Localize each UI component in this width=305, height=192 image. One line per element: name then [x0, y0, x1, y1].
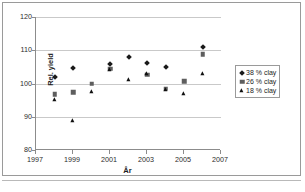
data-point	[70, 65, 76, 71]
x-axis-tick-label: 1999	[57, 155, 87, 164]
y-axis-tick-label: 110	[7, 46, 32, 54]
data-point	[163, 87, 167, 91]
data-point	[200, 52, 205, 57]
legend: 38 % clay26 % clay18 % clay	[235, 65, 280, 98]
x-axis-tick	[72, 150, 73, 154]
caption-divider	[2, 180, 301, 181]
x-axis-tick-label: 2005	[168, 155, 198, 164]
plot-area: Rel. yield	[35, 17, 220, 150]
data-point	[126, 54, 132, 60]
legend-item: 38 % clay	[238, 68, 276, 77]
y-axis-tick	[32, 84, 36, 85]
x-axis-tick	[35, 150, 36, 154]
legend-item: 26 % clay	[238, 77, 276, 86]
data-point	[144, 60, 150, 66]
data-point	[200, 44, 206, 50]
chart-frame: 8090100110120 Rel. yield 199719992001200…	[2, 2, 301, 176]
y-axis-tick-label: 100	[7, 80, 32, 88]
figure-container: 8090100110120 Rel. yield 199719992001200…	[0, 0, 305, 192]
x-axis-title: År	[35, 166, 220, 176]
legend-item: 18 % clay	[238, 86, 276, 95]
data-point	[71, 90, 76, 95]
data-point	[181, 91, 185, 95]
data-point	[144, 71, 148, 75]
x-axis-tick-label: 2007	[205, 155, 235, 164]
y-axis-title: Rel. yield	[46, 40, 55, 100]
data-point	[126, 77, 130, 81]
triangle-marker-icon	[238, 86, 246, 95]
gridline	[36, 117, 221, 118]
data-point	[163, 64, 169, 70]
legend-label: 38 % clay	[246, 68, 276, 77]
x-axis-tick	[220, 150, 221, 154]
x-axis-tick	[183, 150, 184, 154]
diamond-marker-icon	[238, 68, 246, 77]
data-point	[200, 71, 204, 75]
y-axis-tick-labels: 8090100110120	[3, 17, 32, 150]
data-point	[89, 89, 93, 93]
square-marker-icon	[238, 77, 246, 86]
x-axis-tick	[146, 150, 147, 154]
data-point	[70, 118, 74, 122]
y-axis-tick	[32, 117, 36, 118]
y-axis-tick-label: 80	[7, 146, 32, 154]
data-point	[89, 81, 94, 86]
gridline	[36, 17, 221, 18]
gridline	[36, 50, 221, 51]
x-axis-tick-label: 2003	[131, 155, 161, 164]
y-axis-tick	[32, 50, 36, 51]
legend-label: 26 % clay	[246, 77, 276, 86]
data-point	[107, 61, 113, 67]
y-axis-tick-label: 120	[7, 13, 32, 21]
data-point	[182, 79, 187, 84]
x-axis-tick-label: 2001	[94, 155, 124, 164]
y-axis-tick-label: 90	[7, 113, 32, 121]
legend-label: 18 % clay	[246, 86, 276, 95]
gridline	[36, 84, 221, 85]
data-point	[107, 67, 111, 71]
x-axis-tick-label: 1997	[20, 155, 50, 164]
x-axis-tick	[109, 150, 110, 154]
y-axis-tick	[32, 17, 36, 18]
